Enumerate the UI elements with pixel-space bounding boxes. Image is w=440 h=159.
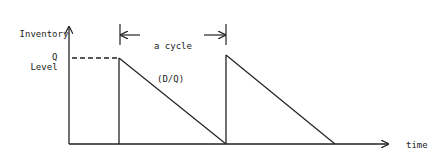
- y-axis-label-line2: Level: [14, 62, 74, 73]
- cycle2-depletion: [226, 55, 335, 144]
- cycle-label-line2: (D/Q): [154, 74, 192, 85]
- q-label: Q: [52, 52, 57, 63]
- y-axis-label: Inventory Level: [14, 7, 74, 84]
- cycle-label-line1: a cycle: [154, 41, 192, 52]
- x-axis-label: time: [406, 140, 428, 151]
- y-axis-label-line1: Inventory: [14, 29, 74, 40]
- cycle-label: a cycle (D/Q): [154, 19, 192, 96]
